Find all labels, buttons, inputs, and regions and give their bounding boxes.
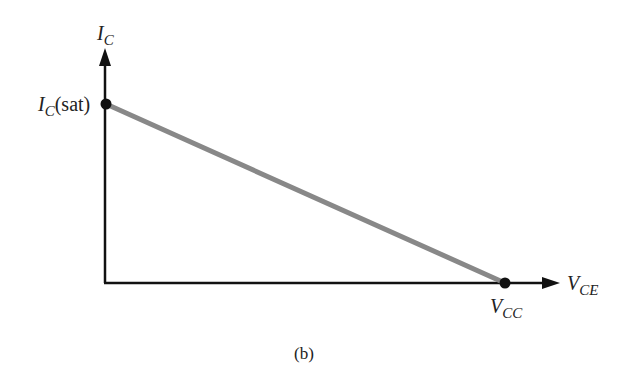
- y-axis-label: IC: [96, 22, 115, 48]
- saturation-point: [101, 99, 112, 110]
- x-axis-arrow-icon: [542, 277, 560, 289]
- saturation-label: IC(sat): [37, 93, 90, 119]
- x-axis-label: VCE: [567, 272, 598, 298]
- figure-caption: (b): [294, 344, 314, 363]
- cutoff-label: VCC: [490, 295, 523, 321]
- load-line: [106, 104, 505, 283]
- y-axis-arrow-icon: [99, 48, 111, 66]
- cutoff-point: [500, 278, 511, 289]
- load-line-diagram: IC IC(sat) VCE VCC (b): [0, 0, 623, 387]
